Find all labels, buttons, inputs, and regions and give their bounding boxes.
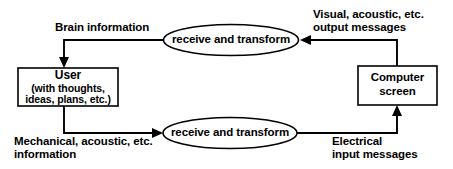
arrow-head-into-screen bbox=[392, 105, 402, 116]
edge-user-to-bottom-process bbox=[64, 105, 157, 133]
edge-label-brain-information: Brain information bbox=[55, 21, 149, 34]
edge-label-electrical-line2: input messages bbox=[332, 148, 418, 161]
node-label-user-sub2: ideas, plans, etc.) bbox=[18, 93, 118, 106]
edge-screen-to-top-process bbox=[306, 40, 397, 66]
node-label-process-bottom: receive and transform bbox=[162, 126, 298, 139]
arrow-head-into-user bbox=[59, 57, 69, 68]
node-label-process-top: receive and transform bbox=[163, 33, 299, 46]
node-label-computer-screen-line1: Computer bbox=[358, 71, 437, 84]
edge-label-visual-output-line2: output messages bbox=[313, 21, 406, 34]
node-label-computer-screen-line2: screen bbox=[358, 85, 437, 98]
arrow-head-into-top-process bbox=[300, 35, 311, 45]
edge-top-process-to-user bbox=[64, 40, 163, 61]
edge-label-visual-output-line1: Visual, acoustic, etc. bbox=[313, 8, 424, 21]
node-label-user-title: User bbox=[18, 69, 118, 82]
edge-label-electrical-line1: Electrical bbox=[332, 135, 382, 148]
edge-label-mechanical-line1: Mechanical, acoustic, etc. bbox=[14, 135, 153, 148]
diagram-canvas: Brain information Visual, acoustic, etc.… bbox=[0, 0, 453, 169]
edge-bottom-process-to-screen bbox=[297, 112, 397, 133]
edge-label-mechanical-line2: information bbox=[14, 148, 76, 161]
